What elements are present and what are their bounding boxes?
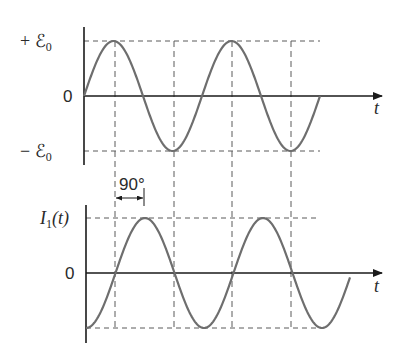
top-y-label-zero: 0 [63,87,72,106]
phase-diagram: + ℰ0 0 − ℰ0 t 90° I1(t) 0 t [0,0,402,360]
top-y-label-negative: − ℰ0 [20,141,52,164]
top-x-label: t [374,98,380,118]
phase-shift-marker: 90° [116,175,145,206]
bottom-y-label-zero: 0 [65,264,74,283]
bottom-graph: I1(t) 0 t [39,205,382,343]
phase-marker-label: 90° [119,175,145,194]
bottom-y-label: I1(t) [39,208,69,231]
top-graph: + ℰ0 0 − ℰ0 t [20,27,382,165]
bottom-x-label: t [374,276,380,296]
top-y-label-positive: + ℰ0 [20,31,52,54]
